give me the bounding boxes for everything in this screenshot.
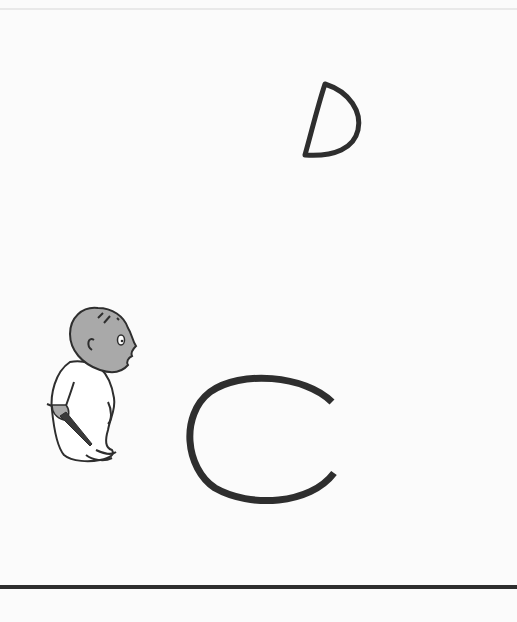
ground-line bbox=[0, 585, 517, 589]
boy-figure bbox=[47, 308, 136, 461]
c-arc-drawing bbox=[190, 378, 334, 500]
illustration-canvas bbox=[0, 0, 517, 622]
moon-icon bbox=[305, 84, 359, 155]
